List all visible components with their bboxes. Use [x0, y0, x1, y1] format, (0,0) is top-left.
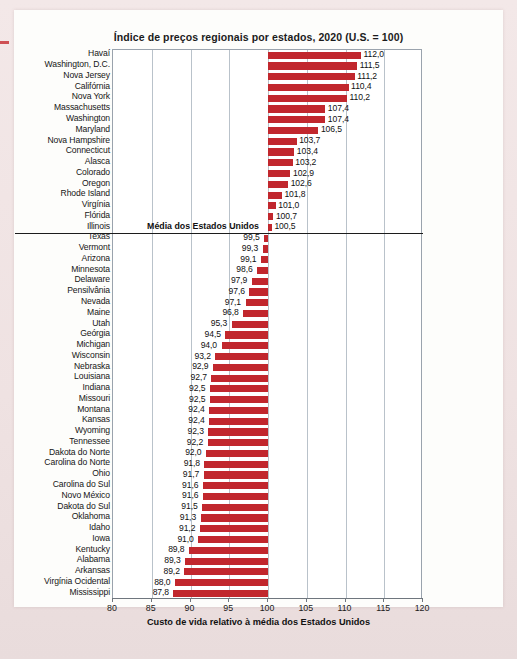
- bar-value-label: 103,7: [299, 135, 320, 145]
- category-label: Iowa: [14, 533, 110, 543]
- category-label: Dakota do Norte: [14, 447, 110, 457]
- bar: [268, 84, 349, 91]
- bar: [210, 385, 268, 392]
- category-label: Carolina do Norte: [14, 457, 110, 467]
- category-label: Alabama: [14, 554, 110, 564]
- bar: [204, 461, 268, 468]
- bar-value-label: 91,2: [179, 523, 195, 533]
- category-label: Kansas: [14, 414, 110, 424]
- bar: [185, 558, 268, 565]
- bar-value-label: 91,5: [181, 501, 197, 511]
- category-label: Mississippi: [14, 587, 110, 597]
- bar-value-label: 100,7: [276, 211, 297, 221]
- chart-title: Índice de preços regionais por estados, …: [14, 31, 503, 43]
- bar-value-label: 98,6: [236, 264, 252, 274]
- x-tick-label: 95: [223, 603, 233, 613]
- bar-row: 97,6: [113, 287, 421, 298]
- bar-value-label: 94,5: [205, 329, 221, 339]
- bar-value-label: 91,6: [182, 480, 198, 490]
- category-label: Missouri: [14, 393, 110, 403]
- bar: [268, 192, 282, 199]
- bar-value-label: 103,4: [297, 146, 318, 156]
- bar-value-label: 92,2: [187, 437, 203, 447]
- bar-row: 94,0: [113, 341, 421, 352]
- x-tick-120: [422, 598, 423, 602]
- bar-value-label: 91,3: [180, 512, 196, 522]
- bar-row: 101,8: [113, 190, 421, 201]
- plot-area: 112,0111,5111,2110,4110,2107,4107,4106,5…: [112, 49, 422, 598]
- bar-row: 101,0: [113, 201, 421, 212]
- bar-value-label: 89,3: [164, 555, 180, 565]
- bar: [268, 116, 325, 123]
- x-tick-115: [383, 598, 384, 602]
- bar: [200, 525, 268, 532]
- bar: [213, 364, 268, 371]
- bar: [175, 579, 268, 586]
- bar: [215, 353, 268, 360]
- bar-value-label: 100,5: [274, 221, 295, 231]
- x-axis-caption: Custo de vida relativo à média dos Estad…: [14, 617, 503, 627]
- category-label: Indiana: [14, 382, 110, 392]
- bar-row: 99,5: [113, 233, 421, 244]
- bar-row: 92,0: [113, 448, 421, 459]
- category-label: Massachusetts: [14, 102, 110, 112]
- bar: [204, 471, 268, 478]
- x-tick-label: 110: [337, 603, 351, 613]
- bar-value-label: 92,5: [189, 394, 205, 404]
- x-tick-label: 115: [376, 603, 390, 613]
- bar: [202, 504, 268, 511]
- bar: [225, 331, 268, 338]
- bar-value-label: 99,3: [242, 243, 258, 253]
- bar-value-label: 101,8: [284, 189, 305, 199]
- bar-row: 91,5: [113, 502, 421, 513]
- bar: [268, 213, 273, 220]
- bar-series: 112,0111,5111,2110,4110,2107,4107,4106,5…: [113, 50, 421, 598]
- bar: [209, 418, 268, 425]
- bar-row: 102,9: [113, 168, 421, 179]
- bar: [268, 224, 272, 231]
- x-tick-label: 90: [185, 603, 195, 613]
- bar: [268, 105, 325, 112]
- bar-value-label: 92,4: [188, 404, 204, 414]
- bar-row: 98,6: [113, 265, 421, 276]
- bar-row: 91,3: [113, 513, 421, 524]
- bar-value-label: 89,2: [163, 566, 179, 576]
- bar-row: 89,8: [113, 545, 421, 556]
- bar-value-label: 103,2: [295, 157, 316, 167]
- bar-value-label: 107,4: [328, 114, 349, 124]
- category-label: Michigan: [14, 339, 110, 349]
- bar-value-label: 92,0: [185, 447, 201, 457]
- bar-value-label: 97,9: [231, 275, 247, 285]
- bar: [268, 148, 294, 155]
- category-label: Carolina do Sul: [14, 479, 110, 489]
- bar-row: 110,4: [113, 82, 421, 93]
- x-tick-label: 85: [146, 603, 156, 613]
- bar: [208, 428, 268, 435]
- bar-value-label: 96,8: [222, 307, 238, 317]
- category-label: Nebraska: [14, 361, 110, 371]
- bar-row: 99,1: [113, 255, 421, 266]
- x-tick-100: [267, 598, 268, 602]
- bar-value-label: 92,9: [192, 361, 208, 371]
- x-axis: 80859095100105110115120: [112, 598, 422, 599]
- category-label: Dakota do Sul: [14, 501, 110, 511]
- bar-value-label: 95,3: [211, 318, 227, 328]
- x-tick-label: 100: [260, 603, 275, 613]
- bar-value-label: 106,5: [321, 124, 342, 134]
- bar-row: 110,2: [113, 93, 421, 104]
- x-tick-105: [306, 598, 307, 602]
- bar-row: 97,9: [113, 276, 421, 287]
- category-label: Oklahoma: [14, 511, 110, 521]
- bar: [201, 514, 268, 521]
- bar: [268, 170, 290, 177]
- bar: [268, 62, 357, 69]
- bar: [208, 439, 268, 446]
- us-average-divider: [15, 233, 423, 234]
- bar-row: 92,4: [113, 405, 421, 416]
- bar: [203, 493, 268, 500]
- bar-row: 94,5: [113, 330, 421, 341]
- x-tick-label: 120: [415, 603, 430, 613]
- bar-value-label: 110,4: [351, 81, 371, 91]
- category-label: Nova Jersey: [14, 70, 110, 80]
- bar: [189, 547, 268, 554]
